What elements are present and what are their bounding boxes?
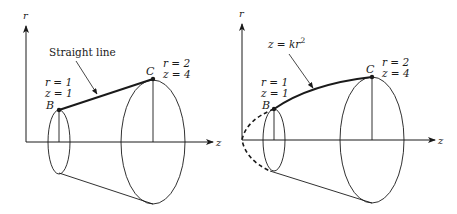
z-axis-label: z xyxy=(437,135,444,146)
r-axis-label: r xyxy=(239,8,245,19)
r-axis-label: r xyxy=(23,10,29,21)
panel-right: r z z = kr2 r = 1 z = 1 B C r = 2 z = 4 xyxy=(239,8,444,203)
leader-arrow xyxy=(76,61,97,94)
curve-label: Straight line xyxy=(49,46,116,58)
C-label: C xyxy=(146,65,155,78)
lower-generator xyxy=(270,171,372,203)
z-axis-label: z xyxy=(215,137,222,148)
figure: r z Straight line r = 1 z = 1 B C r = 2 … xyxy=(0,0,457,214)
leader-arrow xyxy=(289,54,313,88)
point-B xyxy=(57,108,61,112)
B-z-value: z = 1 xyxy=(260,87,289,99)
B-label: B xyxy=(261,99,270,112)
curve-label: z = kr2 xyxy=(267,36,305,50)
C-z-value: z = 4 xyxy=(381,67,410,79)
point-B xyxy=(272,107,276,111)
C-label: C xyxy=(366,63,375,76)
straight-line-BC xyxy=(59,79,153,110)
curve-label-exponent: 2 xyxy=(300,36,305,45)
lower-generator xyxy=(59,173,153,204)
C-z-value: z = 4 xyxy=(162,68,191,80)
curve-label-base: z = kr xyxy=(267,38,301,50)
B-label: B xyxy=(45,99,54,112)
B-z-value: z = 1 xyxy=(44,87,73,99)
panel-left: r z Straight line r = 1 z = 1 B C r = 2 … xyxy=(23,10,222,204)
parabola-BC xyxy=(274,77,372,109)
